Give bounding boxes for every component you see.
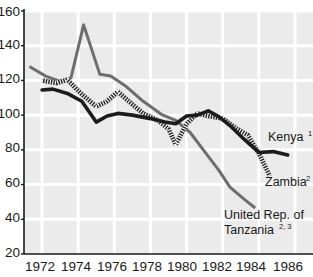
y-tick-label-80: 80: [5, 140, 20, 155]
chart-container: 160 140 120 100 80 60 40 20 1972 1974 19…: [0, 0, 313, 277]
series-label-tanzania-superscript: 2, 3: [279, 222, 292, 231]
x-tick-label-1978: 1978: [132, 259, 162, 274]
series-label-zambia: Zambia: [265, 175, 307, 189]
series-label-zambia-superscript: 2: [306, 174, 310, 183]
series-label-kenya-superscript: 1: [308, 129, 312, 138]
x-tick-label-1982: 1982: [202, 259, 232, 274]
x-tick-label-1974: 1974: [61, 259, 92, 274]
y-tick-label-60: 60: [5, 175, 20, 190]
x-tick-label-1980: 1980: [167, 259, 197, 274]
x-tick-label-1986: 1986: [273, 259, 303, 274]
series-label-kenya: Kenya: [268, 130, 303, 144]
y-tick-label-20: 20: [5, 245, 20, 260]
line-chart: 160 140 120 100 80 60 40 20 1972 1974 19…: [0, 0, 313, 277]
y-tick-label-140: 140: [0, 37, 20, 52]
series-label-tanzania-line2: Tanzania: [224, 223, 274, 237]
y-tick-label-40: 40: [5, 210, 20, 225]
y-tick-label-100: 100: [0, 106, 20, 121]
y-tick-label-120: 120: [0, 71, 20, 86]
x-tick-label-1976: 1976: [97, 259, 127, 274]
x-tick-label-1984: 1984: [236, 259, 267, 274]
y-tick-label-160: 160: [0, 4, 20, 19]
series-label-tanzania-line1: United Rep. of: [224, 208, 304, 222]
x-tick-label-1972: 1972: [25, 259, 55, 274]
